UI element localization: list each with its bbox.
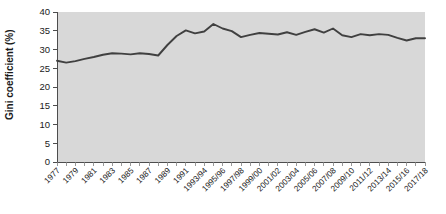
y-axis-tick-label: 25 [39,63,50,74]
y-axis-tick-label: 30 [39,44,50,55]
y-axis-tick-label: 15 [39,100,50,111]
gini-coefficient-line-chart: Gini coefficient (%) 0510152025303540 19… [0,0,446,214]
y-axis-tick-label: 35 [39,25,50,36]
y-axis-tick-label: 5 [45,138,50,149]
x-axis-tick-group [57,162,425,166]
y-axis-tick-label: 20 [39,81,50,92]
y-axis-tick-label: 40 [39,6,50,17]
y-axis-tick-label: 0 [45,156,50,167]
chart-canvas: Gini coefficient (%) 0510152025303540 19… [0,0,446,214]
y-axis-tick-label: 10 [39,119,50,130]
y-axis-title: Gini coefficient (%) [4,29,15,120]
